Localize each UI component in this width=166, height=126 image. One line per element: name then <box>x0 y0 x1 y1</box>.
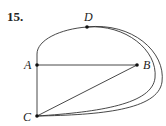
edge-a-d <box>37 27 87 54</box>
vertex-a <box>35 63 39 67</box>
vertex-d <box>85 25 89 29</box>
graph-diagram: A B C D <box>0 0 166 126</box>
vertex-label-b: B <box>143 58 151 72</box>
vertex-c <box>35 114 39 118</box>
vertex-label-d: D <box>83 10 93 24</box>
edge-c-b <box>37 65 137 116</box>
edge-d-c-inner <box>37 27 155 116</box>
vertex-b <box>135 63 139 67</box>
vertex-label-c: C <box>23 110 32 124</box>
vertex-label-a: A <box>23 58 32 72</box>
